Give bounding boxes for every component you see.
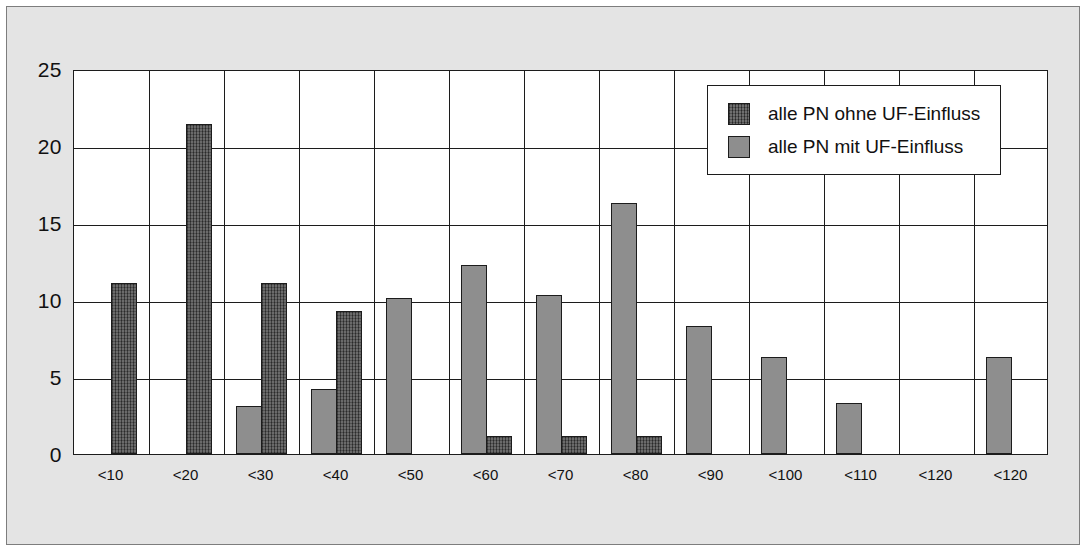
bar — [261, 283, 287, 454]
bar — [461, 265, 487, 454]
bar — [686, 326, 712, 454]
bar — [111, 283, 137, 454]
y-axis-tick-label: 20 — [2, 135, 62, 159]
bar — [536, 295, 562, 454]
legend-item: alle PN mit UF-Einfluss — [708, 130, 1000, 163]
y-axis-tick-label: 0 — [2, 443, 62, 467]
x-axis-tick-label: <40 — [323, 466, 348, 483]
x-axis-tick-label: <20 — [173, 466, 198, 483]
legend-swatch-icon — [728, 103, 750, 125]
legend-item-label: alle PN mit UF-Einfluss — [768, 136, 963, 158]
x-axis-tick-label: <50 — [398, 466, 423, 483]
bar — [611, 203, 637, 454]
x-axis-tick-label: <100 — [769, 466, 803, 483]
x-axis-tick-label: <110 — [844, 466, 877, 483]
legend-swatch-icon — [728, 136, 750, 158]
y-axis-tick-label: 10 — [2, 289, 62, 313]
bar — [336, 311, 362, 454]
legend-item-label: alle PN ohne UF-Einfluss — [768, 103, 980, 125]
y-axis-tick-label: 15 — [2, 212, 62, 236]
bar — [236, 406, 262, 454]
bar — [986, 357, 1012, 454]
bar — [636, 436, 662, 454]
x-axis-tick-label: <10 — [98, 466, 123, 483]
chart-legend: alle PN ohne UF-Einflussalle PN mit UF-E… — [707, 85, 1001, 175]
x-axis-tick-label: <120 — [994, 466, 1028, 483]
bar — [761, 357, 787, 454]
legend-item: alle PN ohne UF-Einfluss — [708, 97, 1000, 130]
y-axis-tick-label: 25 — [2, 58, 62, 82]
bar — [561, 436, 587, 454]
x-axis-tick-label: <80 — [623, 466, 648, 483]
bar — [311, 389, 337, 454]
bar — [186, 124, 212, 454]
x-axis-tick-label: <70 — [548, 466, 573, 483]
x-axis-tick-label: <120 — [919, 466, 953, 483]
x-axis-tick-label: <90 — [698, 466, 723, 483]
x-axis-tick-label: <60 — [473, 466, 498, 483]
y-axis-tick-label: 5 — [2, 366, 62, 390]
chart-figure: 0510152025 <10<20<30<40<50<60<70<80<90<1… — [0, 0, 1086, 551]
bar — [386, 298, 412, 454]
bar — [486, 436, 512, 454]
x-axis-tick-label: <30 — [248, 466, 273, 483]
bar — [836, 403, 862, 454]
